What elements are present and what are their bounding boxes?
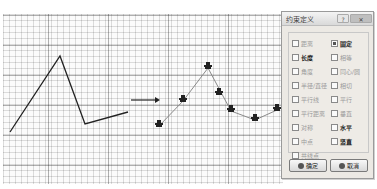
option-label: 固定 — [340, 39, 352, 48]
drawing-svg — [3, 14, 283, 184]
option-perpendicular[interactable]: 垂直 — [331, 108, 352, 118]
option-label: 同心/圆 — [340, 67, 360, 76]
fixed-constraint-icon — [179, 95, 187, 102]
option-label: 平行距离 — [301, 109, 325, 118]
constrained-polyline[interactable] — [159, 68, 277, 126]
option-radius-diameter[interactable]: 半径/直径 — [292, 80, 327, 90]
option-parallel[interactable]: 平行 — [331, 94, 352, 104]
checkbox[interactable] — [292, 124, 299, 131]
checkbox[interactable] — [292, 82, 299, 89]
checkbox[interactable] — [331, 110, 338, 117]
checkbox[interactable] — [331, 82, 338, 89]
fixed-constraint-icon — [204, 62, 212, 69]
option-parallel-lines[interactable]: 平行线 — [292, 94, 319, 104]
checkbox-checked[interactable] — [331, 40, 338, 47]
option-label: 竖直 — [340, 137, 352, 146]
checkbox[interactable] — [292, 68, 299, 75]
close-button[interactable]: ✕ — [350, 14, 372, 23]
ok-label: 确定 — [306, 161, 318, 170]
option-distance[interactable]: 距离 — [292, 38, 313, 48]
checkbox[interactable] — [331, 54, 338, 61]
option-label: 对称 — [301, 123, 313, 132]
ok-icon — [298, 163, 304, 169]
fixed-constraint-icon — [251, 114, 259, 121]
option-label: 半径/直径 — [301, 81, 327, 90]
option-vertical[interactable]: 竖直 — [331, 136, 352, 146]
option-label: 水平 — [340, 123, 352, 132]
option-equal[interactable]: 相等 — [331, 52, 352, 62]
option-label: 平行线 — [301, 95, 319, 104]
constraint-options-group: 距离 固定 长度 相等 角度 同心/圆 半径/直径 相切 平行线 平行 平行距离… — [288, 32, 369, 153]
dialog-title: 约束定义 — [286, 14, 314, 24]
cancel-label: 取消 — [347, 161, 359, 170]
dialog-titlebar[interactable]: 约束定义 ? ✕ — [282, 12, 373, 26]
option-label: 垂直 — [340, 109, 352, 118]
help-button[interactable]: ? — [337, 14, 349, 23]
checkbox[interactable] — [331, 96, 338, 103]
option-label: 距离 — [301, 39, 313, 48]
option-symmetric[interactable]: 对称 — [292, 122, 313, 132]
ok-button[interactable]: 确定 — [289, 159, 327, 172]
checkbox[interactable] — [331, 68, 338, 75]
checkbox[interactable] — [292, 152, 299, 159]
option-label: 平行 — [340, 95, 352, 104]
option-horizontal[interactable]: 水平 — [331, 122, 352, 132]
option-label: 相切 — [340, 81, 352, 90]
checkbox[interactable] — [331, 124, 338, 131]
option-parallel-distance[interactable]: 平行距离 — [292, 108, 325, 118]
fixed-constraint-icon — [273, 104, 281, 111]
option-concentric[interactable]: 同心/圆 — [331, 66, 360, 76]
cancel-button[interactable]: 取消 — [330, 159, 368, 172]
checkbox[interactable] — [292, 138, 299, 145]
checkbox[interactable] — [292, 40, 299, 47]
cancel-icon — [339, 163, 345, 169]
checkbox[interactable] — [292, 110, 299, 117]
option-fixed[interactable]: 固定 — [331, 38, 352, 48]
checkbox[interactable] — [292, 96, 299, 103]
option-tangent[interactable]: 相切 — [331, 80, 352, 90]
transform-arrow — [131, 97, 160, 103]
constraint-definition-dialog: 约束定义 ? ✕ 距离 固定 长度 相等 角度 同心/圆 半径/直径 相切 平行… — [281, 11, 374, 179]
option-label: 长度 — [301, 53, 313, 62]
option-length[interactable]: 长度 — [292, 52, 313, 62]
option-angle[interactable]: 角度 — [292, 66, 313, 76]
fixed-constraint-icon — [155, 120, 163, 127]
option-label: 角度 — [301, 67, 313, 76]
option-label: 中点 — [301, 137, 313, 146]
fixed-constraint-icon — [215, 88, 223, 95]
drawing-canvas[interactable] — [3, 14, 283, 184]
option-midpoint[interactable]: 中点 — [292, 136, 313, 146]
checkbox[interactable] — [292, 54, 299, 61]
option-label: 相等 — [340, 53, 352, 62]
original-polyline[interactable] — [10, 56, 128, 132]
checkbox[interactable] — [331, 138, 338, 145]
